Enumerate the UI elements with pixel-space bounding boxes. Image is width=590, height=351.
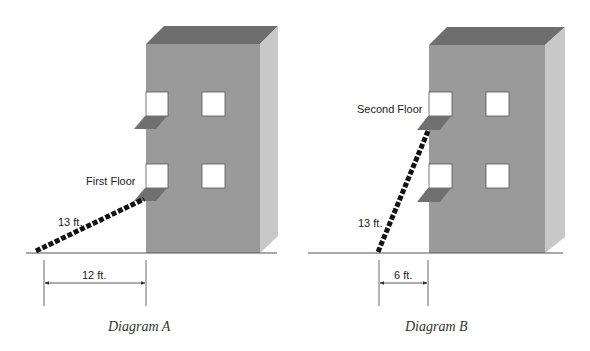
building-b-roof	[429, 27, 565, 45]
window	[429, 92, 452, 116]
window	[202, 164, 225, 188]
window	[486, 164, 509, 188]
window	[429, 164, 452, 188]
building-b	[417, 27, 565, 253]
ladder	[378, 131, 428, 252]
window	[486, 92, 509, 116]
building-a-side	[260, 26, 278, 253]
building-a-front	[146, 44, 260, 253]
window	[146, 164, 168, 188]
floor-label: Second Floor	[357, 103, 423, 115]
ladder	[36, 199, 144, 251]
building-b-front	[429, 45, 545, 253]
building-a-roof	[146, 26, 278, 44]
floor-label: First Floor	[86, 175, 136, 187]
diagram-caption: Diagram B	[404, 319, 468, 334]
base-distance-label: 6 ft.	[394, 269, 412, 281]
diagram-b: Second Floor 13 ft. 6 ft. Diagram B	[308, 27, 565, 334]
window	[202, 92, 225, 116]
ladder-length-label: 13 ft.	[58, 216, 82, 228]
base-distance-label: 12 ft.	[82, 269, 106, 281]
building-b-side	[545, 27, 565, 253]
window	[146, 92, 168, 116]
diagram-a: First Floor 13 ft. 12 ft. Diagram A	[26, 26, 278, 334]
ladder-diagrams: First Floor 13 ft. 12 ft. Diagram A Seco…	[0, 0, 590, 351]
building-a	[134, 26, 278, 253]
ladder-length-label: 13 ft.	[358, 217, 382, 229]
diagram-caption: Diagram A	[107, 319, 171, 334]
